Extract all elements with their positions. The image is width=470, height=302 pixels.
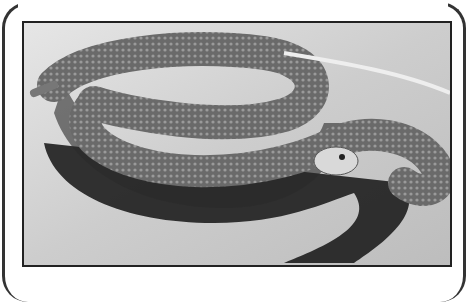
snake-eye <box>339 154 345 160</box>
snake-head <box>314 147 358 175</box>
snake-photo <box>22 21 452 267</box>
frame-gap <box>18 0 448 14</box>
snake-illustration <box>24 23 450 265</box>
